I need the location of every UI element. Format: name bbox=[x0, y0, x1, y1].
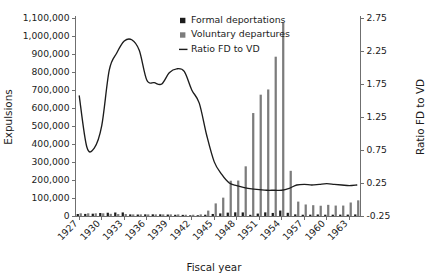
bar-voluntary-departures bbox=[290, 171, 292, 216]
x-tick-label: 1951 bbox=[235, 218, 260, 243]
bar-voluntary-departures bbox=[320, 206, 322, 216]
left-tick-label: 900,000 bbox=[32, 48, 70, 59]
x-tick-label: 1957 bbox=[280, 218, 305, 243]
x-tick-label: 1948 bbox=[213, 218, 238, 243]
right-tick-label: 2.75 bbox=[367, 12, 388, 23]
chart-legend: Formal deportationsVoluntary departuresR… bbox=[179, 14, 290, 54]
bar-voluntary-departures bbox=[282, 23, 284, 217]
x-tick-label: 1954 bbox=[258, 218, 283, 243]
bar-formal-deportations bbox=[122, 212, 124, 216]
bar-formal-deportations bbox=[227, 213, 229, 216]
bar-voluntary-departures bbox=[335, 206, 337, 216]
right-tick-label: 1.25 bbox=[367, 111, 388, 122]
legend-label: Formal deportations bbox=[191, 14, 286, 25]
bar-voluntary-departures bbox=[275, 57, 277, 216]
chart-canvas: 0100,000200,000300,000400,000500,000600,… bbox=[0, 0, 439, 277]
bar-voluntary-departures bbox=[305, 204, 307, 216]
right-axis-title: Ratio FD to VD bbox=[414, 79, 426, 155]
bar-formal-deportations bbox=[234, 212, 236, 216]
left-tick-label: 100,000 bbox=[32, 192, 70, 203]
right-tick-label: 1.75 bbox=[367, 78, 388, 89]
left-tick-label: 500,000 bbox=[32, 120, 70, 131]
bar-formal-deportations bbox=[242, 212, 244, 216]
bar-voluntary-departures bbox=[245, 166, 247, 216]
legend-label: Voluntary departures bbox=[191, 28, 290, 39]
bar-voluntary-departures bbox=[267, 89, 269, 216]
ratio-fd-to-vd-line bbox=[79, 39, 357, 190]
bar-voluntary-departures bbox=[350, 203, 352, 217]
bar-voluntary-departures bbox=[215, 203, 217, 216]
x-axis-title: Fiscal year bbox=[187, 261, 243, 273]
x-tick-label: 1960 bbox=[303, 218, 328, 243]
legend-swatch-formal-deportations bbox=[180, 18, 185, 23]
bar-voluntary-departures bbox=[327, 205, 329, 216]
bar-voluntary-departures bbox=[260, 95, 262, 216]
expulsions-ratio-chart: 0100,000200,000300,000400,000500,000600,… bbox=[0, 0, 439, 277]
right-tick-label: -0.25 bbox=[367, 210, 391, 221]
left-tick-label: 1,000,000 bbox=[23, 30, 70, 41]
left-tick-label: 700,000 bbox=[32, 84, 70, 95]
ratio-line-group bbox=[79, 39, 357, 190]
bar-voluntary-departures bbox=[230, 181, 232, 216]
right-axis-ticks: -0.250.250.751.251.752.252.75 bbox=[361, 12, 391, 221]
bar-voluntary-departures bbox=[252, 113, 254, 216]
left-tick-label: 800,000 bbox=[32, 66, 70, 77]
x-tick-label: 1936 bbox=[123, 218, 148, 243]
x-tick-label: 1933 bbox=[100, 218, 125, 243]
left-tick-label: 600,000 bbox=[32, 102, 70, 113]
x-tick-label: 1930 bbox=[78, 218, 103, 243]
right-tick-label: 0.75 bbox=[367, 144, 388, 155]
bar-voluntary-departures bbox=[297, 202, 299, 216]
bar-formal-deportations bbox=[279, 211, 281, 216]
x-tick-label: 1939 bbox=[145, 218, 170, 243]
left-tick-label: 200,000 bbox=[32, 174, 70, 185]
bar-voluntary-departures bbox=[357, 200, 359, 216]
x-tick-label: 1963 bbox=[325, 218, 350, 243]
x-axis-ticks: 1927193019331936193919421945194819511954… bbox=[55, 216, 350, 242]
bar-voluntary-departures bbox=[207, 211, 209, 216]
x-tick-label: 1942 bbox=[168, 218, 193, 243]
x-tick-label: 1945 bbox=[190, 218, 215, 243]
left-tick-label: 1,100,000 bbox=[23, 12, 70, 23]
right-tick-label: 0.25 bbox=[367, 177, 388, 188]
bar-formal-deportations bbox=[264, 212, 266, 216]
right-tick-label: 2.25 bbox=[367, 45, 388, 56]
left-tick-label: 300,000 bbox=[32, 156, 70, 167]
left-tick-label: 400,000 bbox=[32, 138, 70, 149]
x-tick-label: 1927 bbox=[55, 218, 80, 243]
bar-voluntary-departures bbox=[222, 198, 224, 216]
left-axis-title: Expulsions bbox=[2, 89, 14, 144]
left-axis-ticks: 0100,000200,000300,000400,000500,000600,… bbox=[23, 12, 76, 221]
bar-voluntary-departures bbox=[312, 205, 314, 216]
bar-voluntary-departures bbox=[342, 206, 344, 216]
legend-swatch-voluntary-departures bbox=[180, 32, 185, 37]
legend-label: Ratio FD to VD bbox=[191, 43, 260, 54]
bar-formal-deportations bbox=[114, 213, 116, 216]
